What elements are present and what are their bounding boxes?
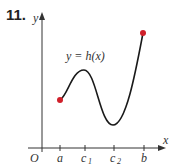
endpoint-a [57,97,63,103]
tick-label-c1: c [81,151,87,164]
curve-h [60,33,143,125]
x-axis-label: x [162,133,169,147]
function-graph: y x O y = h(x) a c 1 c 2 b [0,0,177,164]
endpoint-b [140,30,146,36]
svg-text:2: 2 [117,157,121,164]
origin-label: O [30,151,39,164]
curve-label: y = h(x) [65,49,105,63]
tick-label-a: a [57,151,63,164]
tick-label-c2: c [110,151,116,164]
svg-text:1: 1 [88,157,92,164]
tick-label-b: b [141,151,147,164]
y-axis-label: y [32,11,39,25]
y-axis-arrow-icon [39,12,45,20]
